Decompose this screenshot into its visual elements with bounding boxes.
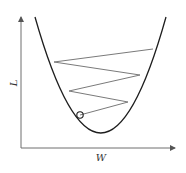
loss-curve [35, 17, 166, 133]
y-axis-label: L [8, 79, 19, 87]
x-axis-label: W [96, 152, 107, 163]
loss-curve-diagram: L W [0, 0, 186, 173]
